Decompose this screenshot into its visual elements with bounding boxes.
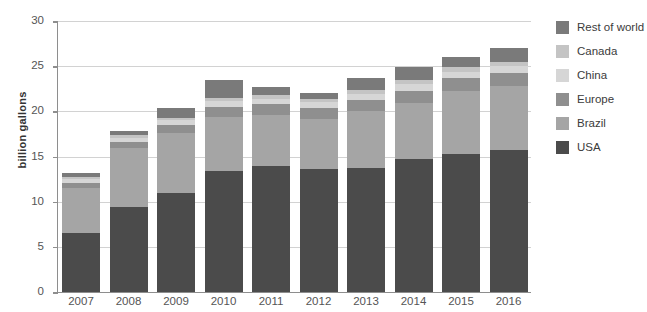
bar-2016 <box>490 48 528 292</box>
bar-segment-brazil <box>205 117 243 171</box>
bar-2010 <box>205 80 243 292</box>
bar-segment-rest-of-world <box>157 108 195 118</box>
y-tick-label: 25 <box>18 59 44 71</box>
legend-swatch-icon <box>556 69 569 82</box>
stacked-bar-chart: billion gallons 051015202530200720082009… <box>0 0 647 312</box>
bar-segment-europe <box>205 107 243 117</box>
bar-segment-rest-of-world <box>347 78 385 90</box>
y-axis-title: billion gallons <box>16 60 28 200</box>
bar-segment-europe <box>300 108 338 119</box>
bar-segment-rest-of-world <box>205 80 243 98</box>
y-tick-mark <box>53 247 58 249</box>
bar-2015 <box>442 57 480 292</box>
bar-segment-brazil <box>110 148 148 207</box>
legend-label: Rest of world <box>577 21 644 33</box>
bar-segment-brazil <box>252 115 290 166</box>
bar-segment-usa <box>395 159 433 292</box>
y-tick-label: 30 <box>18 14 44 26</box>
bar-segment-europe <box>252 104 290 115</box>
legend-label: Europe <box>577 93 614 105</box>
bar-2014 <box>395 67 433 292</box>
bar-2012 <box>300 93 338 292</box>
bar-segment-brazil <box>490 86 528 150</box>
bar-segment-usa <box>157 193 195 292</box>
bar-2009 <box>157 108 195 292</box>
y-tick-mark <box>53 66 58 68</box>
chart-legend: Rest of worldCanadaChinaEuropeBrazilUSA <box>556 15 644 159</box>
bar-segment-usa <box>490 150 528 292</box>
gridline <box>58 21 531 22</box>
y-tick-mark <box>53 21 58 23</box>
legend-label: Canada <box>577 45 617 57</box>
bar-segment-rest-of-world <box>252 87 290 95</box>
y-tick-label: 0 <box>18 285 44 297</box>
bar-segment-europe <box>347 100 385 112</box>
bar-segment-europe <box>395 91 433 104</box>
y-tick-mark <box>53 292 58 294</box>
y-tick-label: 10 <box>18 195 44 207</box>
bar-segment-brazil <box>442 91 480 154</box>
bar-2008 <box>110 131 148 292</box>
bar-segment-usa <box>442 154 480 292</box>
bar-segment-usa <box>300 169 338 292</box>
y-tick-label: 15 <box>18 150 44 162</box>
bar-segment-usa <box>62 233 100 292</box>
bar-2011 <box>252 87 290 292</box>
legend-item-canada[interactable]: Canada <box>556 39 644 63</box>
bar-segment-brazil <box>62 188 100 233</box>
bar-segment-brazil <box>157 133 195 193</box>
x-tick-label: 2016 <box>481 295 537 307</box>
bar-segment-usa <box>205 171 243 292</box>
legend-swatch-icon <box>556 117 569 130</box>
legend-item-china[interactable]: China <box>556 63 644 87</box>
y-tick-label: 5 <box>18 240 44 252</box>
legend-label: Brazil <box>577 117 606 129</box>
bar-2007 <box>62 173 100 292</box>
y-tick-mark <box>53 111 58 113</box>
legend-item-usa[interactable]: USA <box>556 135 644 159</box>
legend-label: China <box>577 69 607 81</box>
legend-item-europe[interactable]: Europe <box>556 87 644 111</box>
plot-area: 0510152025302007200820092010201120122013… <box>57 21 531 293</box>
y-tick-label: 20 <box>18 104 44 116</box>
bar-segment-brazil <box>347 111 385 168</box>
bar-segment-europe <box>157 125 195 133</box>
legend-item-rest-of-world[interactable]: Rest of world <box>556 15 644 39</box>
legend-label: USA <box>577 141 601 153</box>
legend-swatch-icon <box>556 141 569 154</box>
bar-segment-brazil <box>395 103 433 159</box>
legend-swatch-icon <box>556 21 569 34</box>
bar-segment-usa <box>252 166 290 292</box>
bar-segment-brazil <box>300 119 338 170</box>
bar-segment-china <box>490 66 528 73</box>
legend-item-brazil[interactable]: Brazil <box>556 111 644 135</box>
bar-segment-rest-of-world <box>395 67 433 80</box>
bar-segment-rest-of-world <box>442 57 480 67</box>
bar-segment-usa <box>110 207 148 292</box>
bar-segment-europe <box>490 73 528 86</box>
bar-segment-rest-of-world <box>490 48 528 62</box>
y-tick-mark <box>53 157 58 159</box>
y-tick-mark <box>53 202 58 204</box>
legend-swatch-icon <box>556 93 569 106</box>
bar-segment-usa <box>347 168 385 292</box>
bar-2013 <box>347 78 385 292</box>
legend-swatch-icon <box>556 45 569 58</box>
bar-segment-europe <box>442 78 480 91</box>
